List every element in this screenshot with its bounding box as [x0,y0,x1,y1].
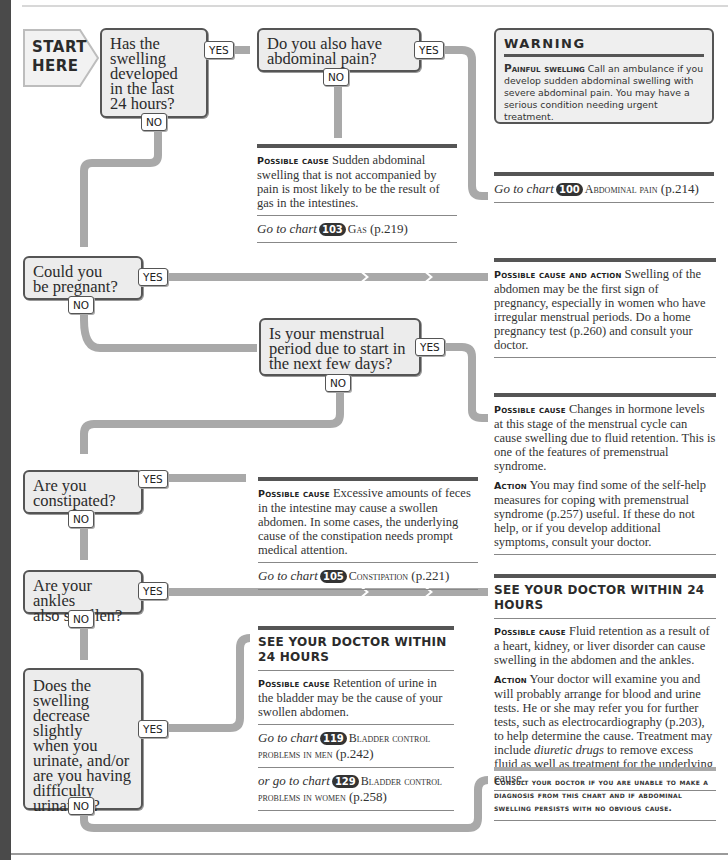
chart-page: (p.258) [349,789,387,804]
urgency-heading: SEE YOUR DOCTOR WITHIN 24 HOURS [258,635,454,665]
possible-cause-label: Possible cause [258,488,330,499]
question-text: Are your ankles [33,578,133,608]
divider [494,618,716,619]
question-ankles-swollen[interactable]: Are your ankles also swollen? [23,570,143,614]
divider [494,202,714,203]
possible-cause-label: Possible cause and action [494,269,621,280]
chart-page: (p.214) [661,181,699,196]
q4-yes-tag[interactable]: YES [415,338,445,356]
divider [494,357,716,358]
question-urination[interactable]: Does the swelling decrease slightly when… [23,668,143,810]
possible-cause-label: Possible cause [494,626,566,637]
goto-prefix: or go to chart [258,773,330,788]
start-label-line2: HERE [32,57,87,76]
panel-premenstrual: Possible cause Changes in hormone levels… [494,393,716,560]
question-text: constipated? [33,493,133,508]
chart-title: Gas [348,222,367,236]
goto-prefix: Go to chart [257,221,317,236]
goto-chart-129-link[interactable]: or go to chart129Bladder control problem… [258,773,454,805]
q1-yes-tag[interactable]: YES [204,41,234,59]
urgency-heading: SEE YOUR DOCTOR WITHIN 24 HOURS [494,583,716,613]
panel-abdominal-pain: Go to chart100Abdominal pain (p.214) [494,172,714,208]
question-menstrual-period[interactable]: Is your menstrual period due to start in… [259,318,421,376]
possible-cause-label: Possible cause [494,404,566,415]
panel-urine-retention: SEE YOUR DOCTOR WITHIN 24 HOURS Possible… [258,626,454,816]
divider [494,820,716,821]
q7-yes-tag[interactable]: YES [138,720,168,738]
question-abdominal-pain[interactable]: Do you also have abdominal pain? [257,28,421,72]
warning-box: WARNING Painful swelling Call an ambulan… [494,28,714,124]
q5-yes-tag[interactable]: YES [138,470,168,488]
question-constipated[interactable]: Are you constipated? [23,470,143,514]
question-pregnant[interactable]: Could you be pregnant? [23,256,143,300]
chart-page: (p.219) [370,221,408,236]
consult-text: Consult your doctor if you are unable to… [494,776,716,815]
goto-chart-105-link[interactable]: Go to chart105Constipation (p.221) [258,568,478,584]
q1-no-tag[interactable]: NO [141,113,167,131]
question-24-hours[interactable]: Has the swelling developed in the last 2… [100,28,208,118]
action-label: Action [494,674,527,685]
start-here-marker: START HERE [22,28,98,84]
q6-yes-tag[interactable]: YES [138,582,168,600]
goto-prefix: Go to chart [258,730,318,745]
possible-cause-label: Possible cause [258,678,330,689]
chart-page: (p.242) [336,746,374,761]
divider [257,215,457,216]
divider [258,810,454,811]
chart-badge: 105 [320,570,347,583]
question-text: decrease slightly [33,708,133,738]
possible-cause-label: Possible cause [257,155,329,166]
question-text: the next few days? [269,356,411,371]
warning-label: Painful swelling [504,62,585,74]
panel-gas: Possible cause Sudden abdominal swelling… [257,144,457,248]
question-text: abdominal pain? [267,51,411,66]
goto-chart-100-link[interactable]: Go to chart100Abdominal pain (p.214) [494,181,714,197]
divider [257,242,457,243]
q3-no-tag[interactable]: NO [68,296,94,314]
chart-badge: 100 [556,183,583,196]
goto-prefix: Go to chart [258,568,318,583]
chart-badge: 129 [332,775,359,788]
action-italic: diuretic drugs [534,743,604,757]
panel-bar [494,172,714,176]
warning-title: WARNING [504,36,704,51]
q5-no-tag[interactable]: NO [68,510,94,528]
goto-chart-103-link[interactable]: Go to chart103Gas (p.219) [257,221,457,237]
goto-chart-119-link[interactable]: Go to chart119Bladder control problems i… [258,730,454,762]
q2-no-tag[interactable]: NO [323,68,349,86]
panel-constipation: Possible cause Excessive amounts of fece… [258,477,478,595]
q6-no-tag[interactable]: NO [68,610,94,628]
warning-divider [504,54,704,57]
chart-title: Abdominal pain [585,182,658,196]
panel-bar [494,574,716,578]
panel-pregnancy: Possible cause and action Swelling of th… [494,258,716,363]
q3-yes-tag[interactable]: YES [138,268,168,286]
panel-bar [494,767,716,771]
divider [258,767,454,768]
chart-badge: 119 [320,732,347,745]
divider [494,554,716,555]
divider [258,589,478,590]
panel-bar [257,144,457,148]
chart-title: Constipation [349,569,408,583]
divider [258,562,478,563]
q7-no-tag[interactable]: NO [68,797,94,815]
start-label-line1: START [32,38,87,57]
question-text: 24 hours? [110,96,198,111]
q4-no-tag[interactable]: NO [325,374,351,392]
question-text: be pregnant? [33,279,133,294]
q2-yes-tag[interactable]: YES [414,41,444,59]
chart-badge: 103 [319,223,346,236]
panel-bar [258,626,454,630]
panel-consult: Consult your doctor if you are unable to… [494,767,716,826]
panel-bar [494,258,716,262]
divider [258,670,454,671]
panel-bar [258,477,478,481]
panel-ankles: SEE YOUR DOCTOR WITHIN 24 HOURS Possible… [494,574,716,796]
divider [258,724,454,725]
chart-page: (p.221) [411,568,449,583]
action-label: Action [494,480,527,491]
goto-prefix: Go to chart [494,181,554,196]
panel-bar [494,393,716,397]
